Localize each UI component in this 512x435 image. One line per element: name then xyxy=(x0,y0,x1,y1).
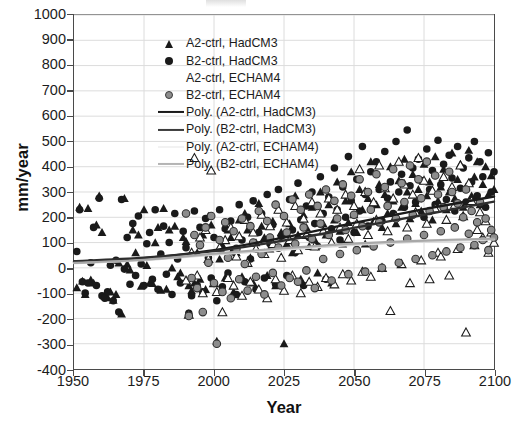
legend-line-swatch xyxy=(156,104,186,121)
y-tick-mark xyxy=(67,14,73,15)
x-tick-label: 2000 xyxy=(198,374,230,389)
y-tick-label: -300 xyxy=(22,337,66,352)
y-tick-label: -200 xyxy=(22,312,66,327)
legend-item[interactable]: Poly. (A2-ctrl, ECHAM4) xyxy=(156,138,356,155)
legend-item-label: B2-ctrl, ECHAM4 xyxy=(186,89,280,101)
y-tick-label: 1000 xyxy=(22,7,66,22)
legend-item-label: Poly. (A2-ctrl, ECHAM4) xyxy=(186,141,319,153)
y-tick-mark xyxy=(67,345,73,346)
trendline xyxy=(74,197,494,263)
legend-item-label: Poly. (B2-ctrl, HadCM3) xyxy=(186,123,316,135)
x-tick-mark xyxy=(495,370,496,376)
x-tick-label: 1950 xyxy=(57,374,89,389)
scatter-chart: -400-300-200-100010020030040050060070080… xyxy=(0,0,512,435)
legend-marker-swatch xyxy=(156,35,186,52)
y-tick-label: -100 xyxy=(22,286,66,301)
triangle-open-marker-icon xyxy=(165,74,173,82)
x-axis-tick-labels: 1950197520002025205020752100 xyxy=(73,374,495,396)
legend-item-label: Poly. (A2-ctrl, HadCM3) xyxy=(186,106,316,118)
trendline-swatch-icon xyxy=(158,128,184,130)
y-tick-label: 800 xyxy=(22,57,66,72)
x-axis-title: Year xyxy=(73,398,495,417)
legend-line-swatch xyxy=(156,155,186,172)
y-tick-label: 0 xyxy=(22,261,66,276)
y-axis-title: mm/year xyxy=(13,118,32,238)
y-tick-label: 700 xyxy=(22,83,66,98)
y-tick-mark xyxy=(67,39,73,40)
y-tick-label: 900 xyxy=(22,32,66,47)
legend-item[interactable]: B2-ctrl, HadCM3 xyxy=(156,52,356,69)
y-tick-mark xyxy=(67,294,73,295)
x-tick-label: 2025 xyxy=(268,374,300,389)
x-tick-label: 2075 xyxy=(409,374,441,389)
legend-line-swatch xyxy=(156,121,186,138)
chart-legend: A2-ctrl, HadCM3B2-ctrl, HadCM3A2-ctrl, E… xyxy=(156,35,356,173)
x-tick-mark xyxy=(73,370,74,376)
legend-item[interactable]: A2-ctrl, ECHAM4 xyxy=(156,69,356,86)
legend-marker-swatch xyxy=(156,87,186,104)
y-tick-mark xyxy=(67,268,73,269)
y-tick-mark xyxy=(67,217,73,218)
y-tick-mark xyxy=(67,319,73,320)
legend-item[interactable]: Poly. (B2-ctrl, HadCM3) xyxy=(156,121,356,138)
y-tick-mark xyxy=(67,192,73,193)
cropped-title-artifact xyxy=(206,0,246,7)
triangle-filled-marker-icon xyxy=(165,40,173,48)
x-tick-mark xyxy=(143,370,144,376)
x-tick-mark xyxy=(354,370,355,376)
legend-item-label: B2-ctrl, HadCM3 xyxy=(186,55,278,67)
y-tick-mark xyxy=(67,65,73,66)
trendline-swatch-icon xyxy=(158,111,184,113)
y-tick-mark xyxy=(67,141,73,142)
x-tick-label: 2100 xyxy=(479,374,511,389)
legend-item[interactable]: A2-ctrl, HadCM3 xyxy=(156,35,356,52)
legend-item[interactable]: B2-ctrl, ECHAM4 xyxy=(156,87,356,104)
y-tick-mark xyxy=(67,243,73,244)
trendline xyxy=(74,202,494,262)
legend-marker-swatch xyxy=(156,69,186,86)
circle-gray-marker-icon xyxy=(165,91,173,99)
legend-item[interactable]: Poly. (B2-ctrl, ECHAM4) xyxy=(156,155,356,172)
x-tick-label: 2050 xyxy=(338,374,370,389)
x-tick-mark xyxy=(425,370,426,376)
legend-item-label: A2-ctrl, HadCM3 xyxy=(186,37,278,49)
x-tick-mark xyxy=(214,370,215,376)
legend-marker-swatch xyxy=(156,52,186,69)
plot-area: A2-ctrl, HadCM3B2-ctrl, HadCM3A2-ctrl, E… xyxy=(73,14,495,370)
trendline-swatch-icon xyxy=(158,146,184,148)
y-tick-mark xyxy=(67,116,73,117)
legend-item[interactable]: Poly. (A2-ctrl, HadCM3) xyxy=(156,104,356,121)
legend-item-label: Poly. (B2-ctrl, ECHAM4) xyxy=(186,158,319,170)
x-tick-label: 1975 xyxy=(127,374,159,389)
legend-line-swatch xyxy=(156,138,186,155)
legend-item-label: A2-ctrl, ECHAM4 xyxy=(186,72,280,84)
y-tick-mark xyxy=(67,167,73,168)
y-tick-label: 100 xyxy=(22,235,66,250)
circle-filled-marker-icon xyxy=(165,57,173,65)
y-tick-mark xyxy=(67,90,73,91)
x-tick-mark xyxy=(284,370,285,376)
trendline-swatch-icon xyxy=(158,163,184,165)
